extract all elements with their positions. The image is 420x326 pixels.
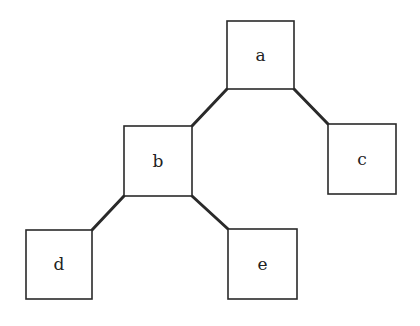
node-b: b bbox=[124, 126, 192, 196]
node-b-label: b bbox=[153, 151, 164, 171]
node-c-label: c bbox=[357, 149, 367, 169]
edge-b-d bbox=[92, 196, 124, 230]
node-a-label: a bbox=[255, 45, 265, 65]
node-a: a bbox=[227, 21, 294, 89]
node-d: d bbox=[26, 230, 92, 299]
node-c: c bbox=[328, 124, 396, 194]
edge-b-e bbox=[192, 196, 228, 229]
edge-a-c bbox=[294, 89, 328, 124]
node-e: e bbox=[228, 229, 297, 299]
edge-a-b bbox=[192, 89, 227, 126]
node-e-label: e bbox=[257, 254, 267, 274]
node-d-label: d bbox=[54, 254, 65, 274]
tree-diagram: a b c d e bbox=[0, 0, 420, 326]
